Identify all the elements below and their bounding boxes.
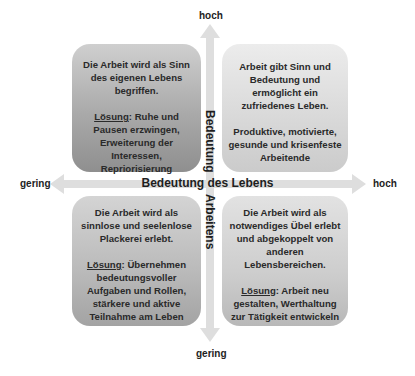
arrow-up-icon (200, 24, 220, 38)
quadrant-outcome: Produktive, motivierte, gesunde und kris… (228, 125, 342, 164)
solution-label: Lösung (241, 285, 276, 296)
solution-label: Lösung (94, 111, 129, 122)
vertical-high-label: hoch (199, 10, 223, 21)
horizontal-axis-label-wrap: Bedeutung des Lebens (0, 176, 415, 191)
solution-label: Lösung (87, 259, 122, 270)
quadrant-top-left: Die Arbeit wird als Sinn des eigenen Leb… (72, 44, 201, 172)
horizontal-axis-label: Bedeutung des Lebens (139, 176, 275, 190)
quadrant-solution: Lösung: Arbeit neu gestalten, Werthaltun… (228, 284, 342, 323)
quadrant-bottom-right: Die Arbeit wird als notwendiges Übel erl… (222, 196, 348, 326)
quadrant-solution: Lösung: Ruhe und Pausen erzwingen, Erwei… (78, 110, 195, 175)
quadrant-description: Die Arbeit wird als Sinn des eigenen Leb… (78, 58, 195, 97)
quadrant-description: Arbeit gibt Sinn und Bedeutung und ermög… (228, 60, 342, 112)
arrow-down-icon (200, 328, 220, 342)
vertical-axis-label-bottom: Arbeitens (203, 194, 217, 249)
quadrant-description: Die Arbeit wird als sinnlose und seelenl… (78, 206, 195, 245)
quadrant-description: Die Arbeit wird als notwendiges Übel erl… (228, 206, 342, 271)
quadrant-solution: Lösung: Übernehmen bedeutungsvoller Aufg… (78, 258, 195, 323)
horizontal-high-label: hoch (373, 178, 397, 189)
horizontal-low-label: gering (20, 178, 51, 189)
vertical-low-label: gering (196, 348, 227, 359)
quadrant-top-right: Arbeit gibt Sinn und Bedeutung und ermög… (222, 44, 348, 172)
quadrant-bottom-left: Die Arbeit wird als sinnlose und seelenl… (72, 196, 201, 326)
vertical-axis-label-top: Bedeutung (203, 110, 217, 173)
